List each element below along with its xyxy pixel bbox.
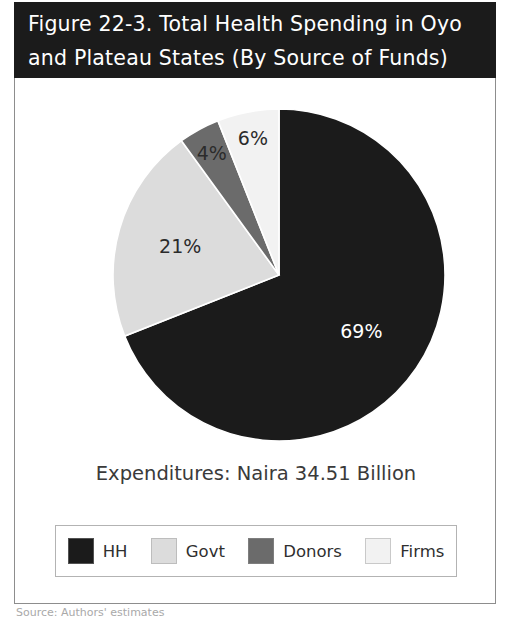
legend-label-donors: Donors [283, 542, 342, 561]
legend-swatch-govt [151, 538, 177, 564]
pie-label-hh: 69% [340, 320, 382, 342]
legend-label-hh: HH [103, 542, 128, 561]
legend-item-hh[interactable]: HH [68, 538, 128, 564]
legend-label-govt: Govt [186, 542, 225, 561]
figure-title-band: Figure 22-3. Total Health Spending in Oy… [14, 2, 496, 78]
source-note: Source: Authors' estimates [16, 606, 164, 618]
legend: HHGovtDonorsFirms [55, 525, 457, 577]
pie-slice-group [113, 109, 445, 441]
pie-label-donors: 4% [197, 142, 227, 164]
legend-swatch-donors [248, 538, 274, 564]
pie-label-firms: 6% [238, 127, 268, 149]
legend-label-firms: Firms [400, 542, 444, 561]
expenditures-caption: Expenditures: Naira 34.51 Billion [15, 462, 497, 485]
pie-chart-svg: 69%21%4%6% [109, 105, 449, 445]
legend-item-donors[interactable]: Donors [248, 538, 342, 564]
pie-chart: 69%21%4%6% [109, 105, 449, 445]
legend-swatch-firms [365, 538, 391, 564]
plot-frame: 69%21%4%6% Expenditures: Naira 34.51 Bil… [14, 78, 496, 604]
pie-label-govt: 21% [159, 235, 201, 257]
legend-item-firms[interactable]: Firms [365, 538, 444, 564]
legend-item-govt[interactable]: Govt [151, 538, 225, 564]
legend-swatch-hh [68, 538, 94, 564]
figure-container: Figure 22-3. Total Health Spending in Oy… [0, 0, 512, 618]
page-title: Figure 22-3. Total Health Spending in Oy… [28, 7, 482, 75]
